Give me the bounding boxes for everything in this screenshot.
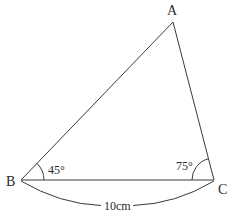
length-arc-bc-right: [133, 181, 214, 206]
triangle-diagram: A B C 45° 75° 10cm: [0, 0, 240, 218]
length-arc-bc: [21, 181, 101, 206]
side-ac: [173, 22, 214, 180]
angle-arc-c: [192, 159, 209, 180]
angle-arc-b: [37, 164, 44, 181]
side-ab: [21, 22, 173, 180]
vertex-label-a: A: [167, 3, 178, 18]
angle-label-b: 45°: [48, 163, 65, 177]
side-length-label-bc: 10cm: [104, 199, 131, 213]
vertex-label-c: C: [218, 182, 227, 197]
angle-label-c: 75°: [176, 159, 193, 173]
vertex-label-b: B: [6, 174, 15, 189]
